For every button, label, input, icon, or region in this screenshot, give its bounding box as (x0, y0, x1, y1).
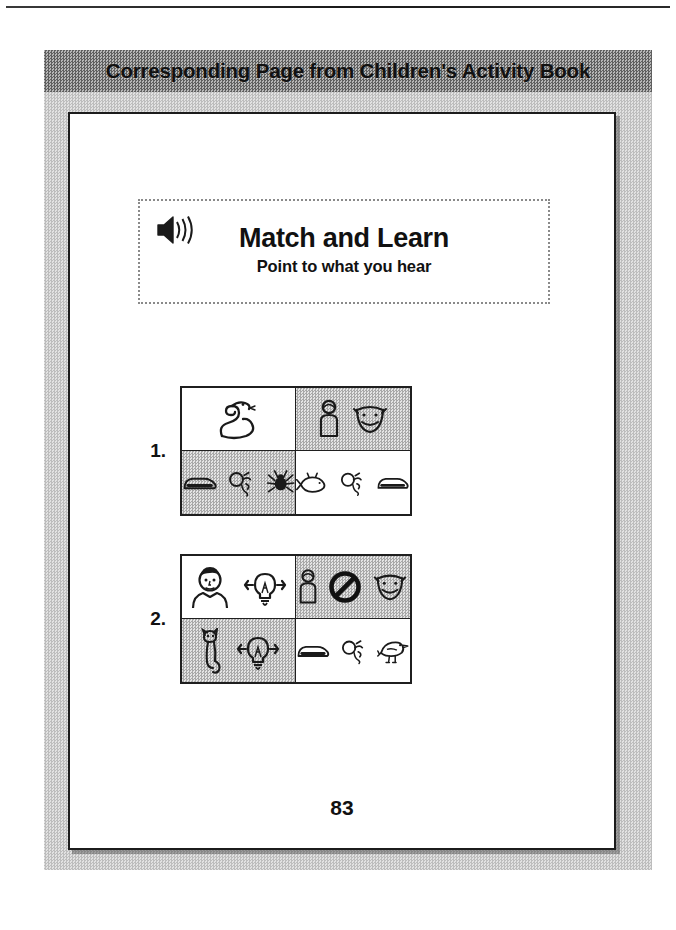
page-number: 83 (70, 796, 614, 820)
grid-cell[interactable] (182, 556, 296, 619)
exercise-1: 1. (130, 386, 412, 516)
prohibition-icon (328, 570, 362, 604)
top-divider-rule (6, 6, 670, 8)
bird-pictogram (377, 634, 410, 668)
grid-cell[interactable] (182, 451, 296, 514)
exercise-number-2: 2. (130, 608, 180, 630)
cat-pictogram (195, 628, 225, 674)
lesson-title: Match and Learn (140, 223, 548, 254)
spider-pictogram (266, 467, 295, 499)
shoe-pictogram (376, 470, 410, 496)
fish-pictogram (296, 469, 330, 497)
grid-cell[interactable] (182, 388, 296, 451)
lesson-subtitle: Point to what you hear (140, 257, 548, 276)
smiling-face-pictogram (350, 400, 390, 438)
grid-cell[interactable] (296, 388, 410, 451)
person-pictogram (297, 567, 319, 607)
activity-book-page: Match and Learn Point to what you hear 1… (68, 112, 616, 850)
pictogram-grid-1 (180, 386, 412, 516)
balloon-pictogram (227, 466, 256, 500)
shoe-pictogram (182, 470, 218, 496)
lightbulb-pictogram (241, 565, 289, 609)
grid-cell[interactable] (182, 619, 296, 682)
exercise-number-1: 1. (130, 440, 180, 462)
snake-pictogram (212, 396, 266, 442)
grid-cell[interactable] (296, 619, 410, 682)
person-pictogram (317, 398, 341, 440)
lightbulb-pictogram (234, 629, 282, 673)
man-head-pictogram (188, 563, 232, 611)
balloon-pictogram (340, 634, 368, 668)
lesson-title-text-wrap: Match and Learn Point to what you hear (140, 223, 548, 276)
grid-cell[interactable] (296, 451, 410, 514)
balloon-pictogram (339, 466, 367, 500)
exercise-2: 2. (130, 554, 412, 684)
shoe-pictogram (296, 638, 331, 664)
lesson-title-box: Match and Learn Point to what you hear (138, 199, 550, 304)
pictogram-grid-2 (180, 554, 412, 684)
grid-cell[interactable] (296, 556, 410, 619)
header-title: Corresponding Page from Children's Activ… (106, 59, 590, 83)
header-band: Corresponding Page from Children's Activ… (44, 50, 652, 92)
smiling-face-pictogram (371, 569, 409, 605)
